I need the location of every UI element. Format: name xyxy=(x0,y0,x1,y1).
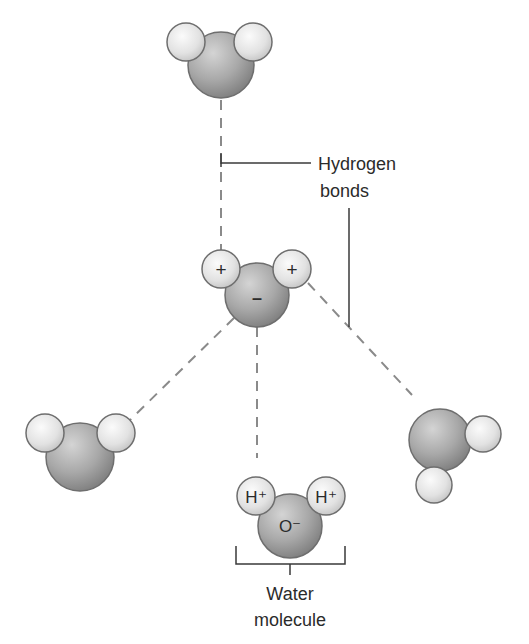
hydrogen-atom xyxy=(167,23,205,61)
water-molecule-label-line1: Water xyxy=(266,584,313,604)
hydrogen-atom xyxy=(97,414,135,452)
oxygen-ion-label: O⁻ xyxy=(279,517,301,536)
hydrogen-bond-right xyxy=(308,283,412,395)
hydrogen-atom xyxy=(234,23,272,61)
oxygen-atom xyxy=(409,409,471,471)
hydrogen-bonds-label-line1: Hydrogen xyxy=(318,154,396,174)
hydrogen-bond-left xyxy=(128,318,234,422)
partial-negative: – xyxy=(252,288,262,308)
hydrogen-atom xyxy=(416,467,452,503)
hydrogen-atom xyxy=(465,416,501,452)
water-molecule-left xyxy=(26,414,135,491)
hydrogen-bonds-label-line2: bonds xyxy=(320,181,369,201)
hydrogen-ion-label-left: H⁺ xyxy=(245,488,266,507)
partial-positive-left: + xyxy=(215,259,226,280)
hydrogen-ion-label-right: H⁺ xyxy=(315,488,336,507)
water-molecule-label-line2: molecule xyxy=(254,610,326,630)
water-hydrogen-bond-diagram: + + – H⁺ H⁺ O⁻ Hydrogen bonds Water mole… xyxy=(0,0,529,644)
partial-positive-right: + xyxy=(286,259,297,280)
water-molecule-top xyxy=(167,23,272,98)
water-molecule-right xyxy=(409,409,501,503)
hydrogen-atom xyxy=(26,414,64,452)
